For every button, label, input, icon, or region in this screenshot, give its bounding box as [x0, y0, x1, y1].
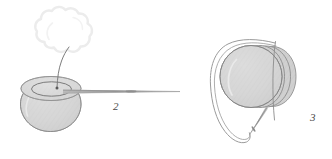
- illustration-canvas: 2: [0, 0, 332, 159]
- sphere-cap: [21, 77, 81, 101]
- figure-container: 2: [0, 0, 332, 159]
- cloud-shape: [35, 7, 92, 52]
- needle-short: [250, 107, 268, 135]
- item-2-group: 2: [21, 7, 181, 132]
- figure-label-2: 2: [113, 100, 119, 112]
- figure-label-3: 3: [309, 111, 316, 123]
- item-3-group: 3: [210, 40, 316, 143]
- needle-long: [63, 90, 180, 94]
